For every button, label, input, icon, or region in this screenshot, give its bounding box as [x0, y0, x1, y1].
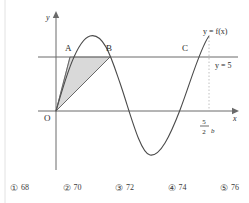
choice-3-value: 72: [126, 184, 134, 192]
choice-1-value: 68: [21, 184, 29, 192]
choice-2[interactable]: ② 70: [63, 184, 82, 193]
choice-5[interactable]: ⑤ 76: [220, 184, 239, 193]
math-figure: y x O A B C y = f(x) y = 5 5 2 b ① 68 ② …: [0, 0, 249, 203]
point-label-a: A: [65, 43, 72, 53]
y-axis-arrow: [53, 11, 59, 18]
choice-5-marker: ⑤: [220, 184, 228, 193]
line-equation-label: y = 5: [215, 61, 232, 70]
x-tick-variable: b: [211, 127, 215, 135]
choice-2-value: 70: [74, 184, 82, 192]
choice-1-marker: ①: [10, 184, 18, 193]
origin-label: O: [44, 113, 51, 123]
choice-4-value: 74: [179, 184, 187, 192]
function-graph: y x O A B C y = f(x) y = 5 5 2 b: [0, 0, 249, 203]
point-label-c: C: [182, 43, 188, 53]
point-label-b: B: [106, 43, 112, 53]
x-tick-label-five-halves-b: 5 2 b: [200, 118, 215, 136]
choice-5-value: 76: [231, 184, 239, 192]
curve-equation-label: y = f(x): [203, 27, 228, 36]
y-axis-label: y: [45, 13, 50, 22]
x-tick-denominator: 2: [202, 128, 206, 136]
choice-3-marker: ③: [115, 184, 123, 193]
choice-3[interactable]: ③ 72: [115, 184, 134, 193]
choice-2-marker: ②: [63, 184, 71, 193]
choice-4[interactable]: ④ 74: [168, 184, 187, 193]
choice-4-marker: ④: [168, 184, 176, 193]
curve-y-equals-f-of-x: [56, 36, 209, 156]
x-axis-label: x: [232, 114, 237, 123]
answer-choices: ① 68 ② 70 ③ 72 ④ 74 ⑤ 76: [0, 178, 249, 198]
x-tick-numerator: 5: [202, 118, 206, 126]
choice-1[interactable]: ① 68: [10, 184, 29, 193]
